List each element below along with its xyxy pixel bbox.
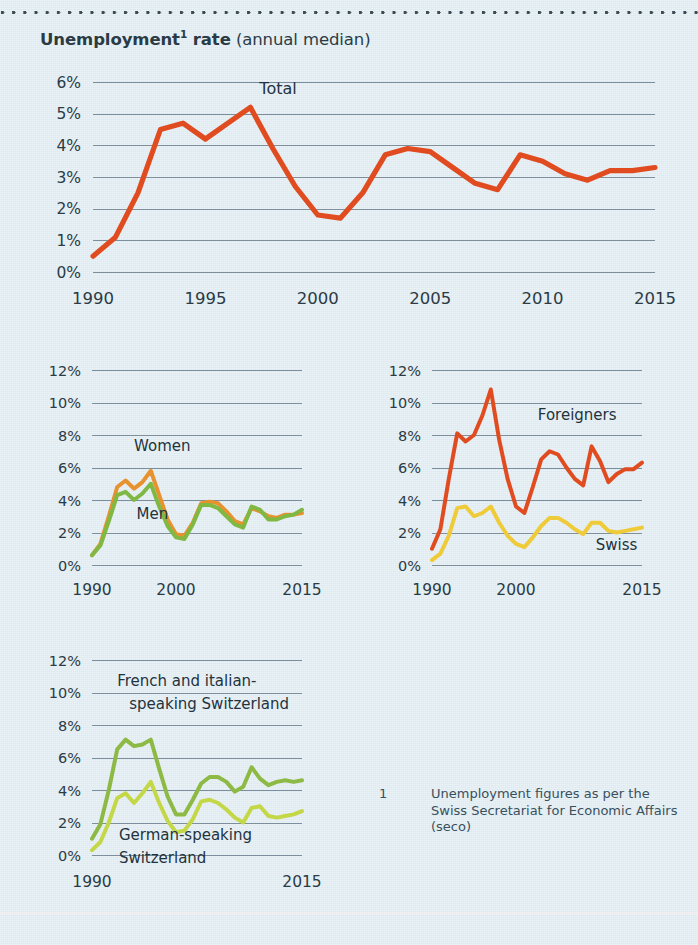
y-axis-tick-label: 8% <box>58 428 81 444</box>
x-axis-tick-label: 2000 <box>156 581 195 599</box>
chart-svg-gender: 0%2%4%6%8%10%12%199020002015WomenMen <box>0 350 345 600</box>
chart-panel-total: 0%1%2%3%4%5%6%199019952000200520102015To… <box>0 60 698 310</box>
y-axis-tick-label: 0% <box>56 264 81 282</box>
x-axis-tick-label: 1990 <box>72 289 114 308</box>
series-label-german-speaking-switzerland: German-speaking <box>119 826 252 844</box>
y-axis-tick-label: 4% <box>58 493 81 509</box>
chart-panel-gender: 0%2%4%6%8%10%12%199020002015WomenMen <box>0 350 345 600</box>
y-axis-tick-label: 10% <box>49 685 81 701</box>
series-label-french-and-italian-speaking-switzerland: French and italian- <box>117 672 256 690</box>
x-axis-tick-label: 2015 <box>282 873 321 891</box>
y-axis-tick-label: 5% <box>56 105 81 123</box>
x-axis-tick-label: 1995 <box>184 289 226 308</box>
chart-svg-nationality: 0%2%4%6%8%10%12%199020002015ForeignersSw… <box>340 350 698 600</box>
x-axis-tick-label: 2010 <box>522 289 564 308</box>
series-label-german-speaking-switzerland-line2: Switzerland <box>119 849 207 867</box>
y-axis-tick-label: 6% <box>398 460 421 476</box>
x-axis-tick-label: 2015 <box>282 581 321 599</box>
x-axis-tick-label: 1990 <box>72 581 111 599</box>
x-axis-tick-label: 1990 <box>72 873 111 891</box>
page-title: Unemployment1 rate (annual median) <box>40 28 371 49</box>
y-axis-tick-label: 10% <box>49 395 81 411</box>
y-axis-tick-label: 12% <box>49 363 81 379</box>
series-label-foreigners: Foreigners <box>538 406 617 424</box>
y-axis-tick-label: 2% <box>58 525 81 541</box>
y-axis-tick-label: 8% <box>398 428 421 444</box>
y-axis-tick-label: 0% <box>398 558 421 574</box>
y-axis-tick-label: 2% <box>56 200 81 218</box>
x-axis-tick-label: 2000 <box>496 581 535 599</box>
series-line-total <box>93 107 655 256</box>
y-axis-tick-label: 10% <box>389 395 421 411</box>
series-line-men <box>92 484 302 556</box>
series-label-french-and-italian-speaking-switzerland-line2: speaking Switzerland <box>129 695 289 713</box>
y-axis-tick-label: 3% <box>56 169 81 187</box>
chart-svg-language-region: 0%2%4%6%8%10%12%19902015French and itali… <box>0 640 345 900</box>
x-axis-tick-label: 2015 <box>634 289 676 308</box>
series-label-swiss: Swiss <box>596 536 638 554</box>
x-axis-tick-label: 1990 <box>412 581 451 599</box>
x-axis-tick-label: 2015 <box>622 581 661 599</box>
y-axis-tick-label: 2% <box>58 815 81 831</box>
y-axis-tick-label: 0% <box>58 558 81 574</box>
y-axis-tick-label: 0% <box>58 848 81 864</box>
chart-svg-total: 0%1%2%3%4%5%6%199019952000200520102015To… <box>0 60 698 310</box>
chart-panel-language-region: 0%2%4%6%8%10%12%19902015French and itali… <box>0 640 345 900</box>
y-axis-tick-label: 12% <box>389 363 421 379</box>
title-tail: rate <box>187 30 231 49</box>
y-axis-tick-label: 4% <box>56 137 81 155</box>
y-axis-tick-label: 6% <box>58 460 81 476</box>
series-label-total: Total <box>258 79 296 98</box>
y-axis-tick-label: 4% <box>58 783 81 799</box>
y-axis-tick-label: 4% <box>398 493 421 509</box>
chart-panel-nationality: 0%2%4%6%8%10%12%199020002015ForeignersSw… <box>340 350 698 600</box>
series-label-women: Women <box>134 437 190 455</box>
x-axis-tick-label: 2000 <box>297 289 339 308</box>
title-parenthetical: (annual median) <box>231 30 371 49</box>
footnote-marker: 1 <box>379 786 399 803</box>
footnote-text: Unemployment figures as per the Swiss Se… <box>431 786 679 836</box>
x-axis-tick-label: 2005 <box>409 289 451 308</box>
series-label-men: Men <box>137 505 169 523</box>
y-axis-tick-label: 12% <box>49 653 81 669</box>
y-axis-tick-label: 1% <box>56 232 81 250</box>
y-axis-tick-label: 6% <box>56 74 81 92</box>
y-axis-tick-label: 2% <box>398 525 421 541</box>
y-axis-tick-label: 8% <box>58 718 81 734</box>
y-axis-tick-label: 6% <box>58 750 81 766</box>
footnote: 1 Unemployment figures as per the Swiss … <box>379 786 679 836</box>
title-main: Unemployment <box>40 30 180 49</box>
divider-bottom <box>0 912 698 914</box>
dotted-divider-top <box>0 10 698 15</box>
